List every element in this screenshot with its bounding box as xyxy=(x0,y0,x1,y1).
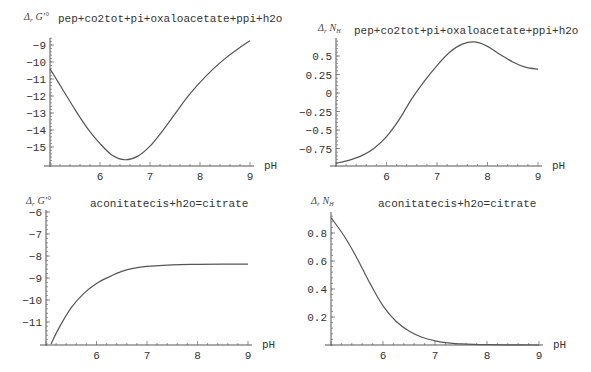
x-tick-label: 9 xyxy=(245,350,252,362)
y-tick-label: −12 xyxy=(26,91,46,103)
y-tick-label: −14 xyxy=(26,125,46,137)
chart-panel-3: 6789pH−11−10−9−8−7−6ΔrG'°aconitatecis+h2… xyxy=(22,195,275,362)
chart-title: aconitatecis+h2o=citrate xyxy=(378,198,536,210)
x-tick-label: 9 xyxy=(535,171,542,183)
y-tick-label: −10 xyxy=(22,295,42,307)
x-axis-label: pH xyxy=(264,160,277,172)
figure-canvas: 6789pH−15−14−13−12−11−10−9ΔrG'°pep+co2to… xyxy=(0,0,591,372)
x-tick-label: 9 xyxy=(247,171,254,183)
y-tick-label: −11 xyxy=(22,317,42,329)
y-tick-label: 0.8 xyxy=(307,228,327,240)
y-tick-label: −0.25 xyxy=(299,107,332,119)
data-curve xyxy=(51,264,248,344)
chart-panel-2: 6789pH−0.75−0.5−0.2500.250.5ΔrNHpep+co2t… xyxy=(299,22,578,183)
chart-title: pep+co2tot+pi+oxaloacetate+ppi+h2o xyxy=(354,25,578,37)
x-tick-label: 7 xyxy=(434,171,441,183)
chart-panel-4: 6789pH0.20.40.60.8ΔrNHaconitatecis+h2o=c… xyxy=(307,195,566,362)
chart-title: pep+co2tot+pi+oxaloacetate+ppi+h2o xyxy=(58,13,282,25)
x-axis-label: pH xyxy=(553,339,566,351)
y-tick-label: −13 xyxy=(26,108,46,120)
y-tick-label: −8 xyxy=(29,251,42,263)
x-tick-label: 8 xyxy=(197,171,204,183)
y-axis-label: ΔrNH xyxy=(317,22,341,35)
x-tick-label: 7 xyxy=(144,350,151,362)
x-tick-label: 6 xyxy=(97,171,104,183)
y-tick-label: −11 xyxy=(26,74,46,86)
y-tick-label: 0.2 xyxy=(307,312,327,324)
y-axis-label: ΔrNH xyxy=(310,195,334,208)
data-curve xyxy=(336,42,538,163)
y-tick-label: −0.5 xyxy=(306,125,332,137)
x-axis-label: pH xyxy=(552,160,565,172)
y-tick-label: 0.5 xyxy=(312,51,332,63)
x-axis-label: pH xyxy=(262,339,275,351)
x-tick-label: 8 xyxy=(484,171,491,183)
x-tick-label: 6 xyxy=(383,171,390,183)
y-tick-label: −15 xyxy=(26,142,46,154)
data-curve xyxy=(331,218,539,345)
y-axis-label: ΔrG'° xyxy=(23,11,49,24)
x-tick-label: 7 xyxy=(147,171,154,183)
x-tick-label: 6 xyxy=(93,350,100,362)
y-tick-label: −7 xyxy=(29,229,42,241)
x-tick-label: 9 xyxy=(536,350,543,362)
y-tick-label: −9 xyxy=(29,273,42,285)
x-tick-label: 8 xyxy=(194,350,201,362)
chart-title: aconitatecis+h2o=citrate xyxy=(90,198,248,210)
chart-panel-1: 6789pH−15−14−13−12−11−10−9ΔrG'°pep+co2to… xyxy=(23,11,282,183)
x-tick-label: 7 xyxy=(432,350,439,362)
y-tick-label: 0.25 xyxy=(306,70,332,82)
y-tick-label: −6 xyxy=(29,207,42,219)
x-tick-label: 8 xyxy=(484,350,491,362)
data-curve xyxy=(50,41,250,160)
y-tick-label: 0.4 xyxy=(307,284,327,296)
y-tick-label: 0 xyxy=(325,88,332,100)
y-tick-label: 0.6 xyxy=(307,256,327,268)
x-tick-label: 6 xyxy=(380,350,387,362)
y-tick-label: −9 xyxy=(33,40,46,52)
y-tick-label: −10 xyxy=(26,57,46,69)
y-tick-label: −0.75 xyxy=(299,144,332,156)
